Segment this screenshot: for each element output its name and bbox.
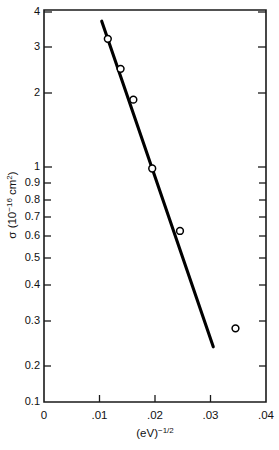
data-point (104, 35, 111, 42)
ytick-label-0.4: 0.4 (25, 278, 40, 290)
x-axis-tick-labels: 0 .01 .02 .03 .04 (41, 409, 275, 421)
xtick-label-0.01: .01 (92, 409, 108, 421)
y-axis-title-close: ) (6, 171, 18, 175)
ytick-label-0.9: 0.9 (25, 176, 40, 188)
ytick-label-4: 4 (34, 5, 40, 17)
data-point (130, 96, 137, 103)
data-point (177, 228, 184, 235)
y-axis-ticks-left (44, 12, 52, 366)
x-axis-title: (eV)−1/2 (136, 426, 174, 439)
xtick-label-0: 0 (41, 409, 47, 421)
x-axis-title-base: (eV) (136, 427, 158, 439)
ytick-label-0.5: 0.5 (25, 251, 40, 263)
ytick-label-0.2: 0.2 (25, 359, 40, 371)
ytick-label-0.3: 0.3 (25, 314, 40, 326)
ytick-label-0.7: 0.7 (25, 210, 40, 222)
plot-frame (44, 10, 266, 402)
ytick-label-1: 1 (34, 160, 40, 172)
y-axis-title-exponent: −16 (5, 198, 14, 212)
ytick-label-2: 2 (34, 86, 40, 98)
ytick-label-3: 3 (34, 40, 40, 52)
data-point (232, 325, 239, 332)
data-point (117, 65, 124, 72)
xtick-label-0.04: .04 (258, 409, 275, 421)
ytick-label-0.8: 0.8 (25, 193, 40, 205)
x-axis-title-exponent: −1/2 (158, 426, 174, 435)
y-axis-title-open: (10 (6, 212, 18, 232)
axes-box (44, 10, 266, 402)
svg-text:(eV)−1/2: (eV)−1/2 (136, 426, 174, 439)
y-axis-title-unit: cm (6, 180, 18, 199)
x-axis-ticks (100, 395, 211, 402)
y-axis-title-symbol: σ (6, 232, 18, 239)
ytick-label-0.1: 0.1 (25, 395, 40, 407)
y-axis-ticks-right (258, 12, 266, 366)
ytick-label-0.6: 0.6 (25, 229, 40, 241)
figure-container: 4 3 2 1 0.9 0.8 0.7 0.6 0.5 0.4 0.3 0.2 … (0, 0, 279, 450)
svg-text:σ (10−16 cm2): σ (10−16 cm2) (5, 171, 18, 239)
xtick-label-0.03: .03 (203, 409, 219, 421)
xtick-label-0.02: .02 (147, 409, 163, 421)
data-point-group (104, 35, 238, 331)
y-axis-title: σ (10−16 cm2) (5, 171, 18, 239)
y-axis-tick-labels: 4 3 2 1 0.9 0.8 0.7 0.6 0.5 0.4 0.3 0.2 … (25, 5, 40, 407)
semilog-scatter-plot: 4 3 2 1 0.9 0.8 0.7 0.6 0.5 0.4 0.3 0.2 … (0, 0, 279, 450)
data-point (149, 165, 156, 172)
